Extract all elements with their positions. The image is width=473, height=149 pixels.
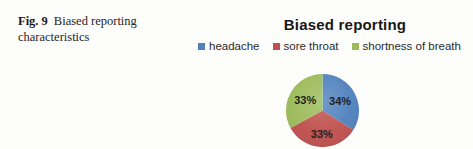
pie-slice-label: 33%: [294, 94, 316, 106]
legend-item-sore-throat: sore throat: [273, 40, 339, 52]
pie-chart: 34%33%33%: [284, 72, 361, 149]
caption-line1: Biased reporting: [54, 14, 137, 28]
legend-label: headache: [209, 40, 260, 52]
pie-slice-label: 33%: [311, 128, 333, 140]
legend-swatch-icon: [352, 43, 359, 50]
legend-item-headache: headache: [198, 40, 260, 52]
legend-swatch-icon: [273, 43, 280, 50]
figure-panel: Fig. 9Biased reporting characteristics B…: [0, 0, 473, 149]
chart-title: Biased reporting: [284, 16, 406, 33]
legend-label: sore throat: [284, 40, 339, 52]
figure-caption: Fig. 9Biased reporting characteristics: [18, 14, 193, 45]
caption-line2: characteristics: [18, 30, 89, 44]
legend-label: shortness of breath: [363, 40, 461, 52]
legend-item-shortness-of-breath: shortness of breath: [352, 40, 461, 52]
figure-number: Fig. 9: [18, 14, 48, 28]
chart-legend: headachesore throatshortness of breath: [198, 40, 461, 52]
pie-slice-label: 34%: [329, 95, 351, 107]
legend-swatch-icon: [198, 43, 205, 50]
